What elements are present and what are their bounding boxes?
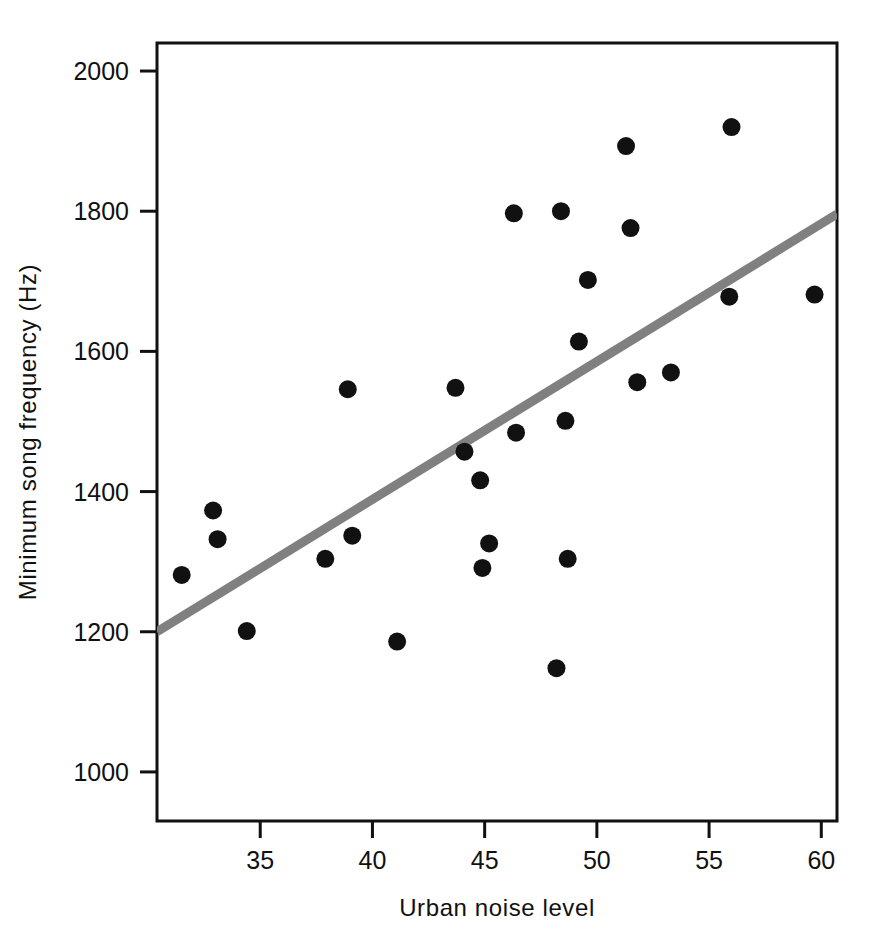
x-tick-label: 50 [583,846,611,874]
scatter-point [628,373,646,391]
scatter-point [556,412,574,430]
scatter-point [579,271,597,289]
scatter-point [446,379,464,397]
scatter-point [720,288,738,306]
scatter-point [547,659,565,677]
y-tick-label: 1400 [73,478,129,506]
y-tick-label: 1000 [73,758,129,786]
scatter-point [480,534,498,552]
x-tick-label: 60 [807,846,835,874]
scatter-point [204,502,222,520]
scatter-point [316,550,334,568]
x-tick-label: 40 [359,846,387,874]
figure-background [0,0,888,948]
scatter-point [339,380,357,398]
scatter-point [388,633,406,651]
y-tick-label: 1200 [73,618,129,646]
y-axis-label: Minimum song frequency (Hz) [14,264,41,600]
scatter-point [455,443,473,461]
scatter-point [552,202,570,220]
scatter-point [238,622,256,640]
x-tick-label: 35 [246,846,274,874]
scatter-plot: 100012001400160018002000 354045505560 Ur… [0,0,888,948]
scatter-point [343,527,361,545]
y-tick-label: 1600 [73,337,129,365]
y-tick-label: 2000 [73,57,129,85]
scatter-point [806,286,824,304]
x-tick-label: 45 [471,846,499,874]
scatter-point [507,424,525,442]
scatter-point [723,118,741,136]
scatter-point [471,471,489,489]
scatter-point [505,204,523,222]
scatter-point [662,363,680,381]
scatter-point [559,550,577,568]
scatter-point [617,137,635,155]
x-axis-label: Urban noise level [399,894,595,921]
x-tick-label: 55 [695,846,723,874]
scatter-point [570,333,588,351]
figure-container: 100012001400160018002000 354045505560 Ur… [0,0,888,948]
scatter-point [622,219,640,237]
y-tick-label: 1800 [73,197,129,225]
scatter-point [209,530,227,548]
scatter-point [173,566,191,584]
scatter-point [473,559,491,577]
